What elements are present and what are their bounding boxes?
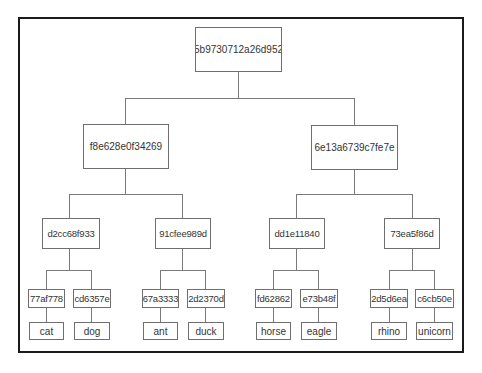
data-block-node: dog — [74, 322, 110, 340]
connector — [354, 98, 355, 125]
connector — [412, 194, 413, 219]
leaf-hash-node: fd62862 — [255, 289, 292, 308]
leaf-hash-label: 77af778 — [30, 293, 63, 304]
leaf-hash-node: 2d2370d — [187, 289, 225, 308]
data-block-label: horse — [261, 326, 286, 337]
data-block-node: cat — [29, 322, 64, 340]
level1-hash-node-right: 6e13a6739c7fe7e — [311, 125, 398, 170]
data-block-label: eagle — [307, 326, 331, 337]
leaf-hash-label: fd62862 — [257, 293, 290, 304]
connector — [46, 308, 47, 323]
level2-hash-node: 73ea5f86d — [384, 218, 440, 249]
leaf-hash-node: c6cb50e — [415, 289, 454, 308]
connector — [354, 170, 355, 195]
level2-hash-label: dd1e11840 — [274, 228, 319, 239]
data-block-node: unicorn — [416, 322, 453, 340]
data-block-label: cat — [40, 326, 53, 337]
leaf-hash-label: e73b48f — [303, 293, 336, 304]
level2-hash-node: 91cfee989d — [155, 218, 211, 249]
connector — [412, 249, 413, 270]
connector — [296, 249, 297, 270]
data-block-label: rhino — [378, 326, 400, 337]
level1-hash-label: 6e13a6739c7fe7e — [314, 142, 394, 153]
data-block-label: dog — [84, 326, 101, 337]
data-block-node: rhino — [371, 322, 407, 340]
connector — [273, 270, 319, 271]
leaf-hash-node: 67a3333 — [142, 289, 179, 308]
level2-hash-label: 91cfee989d — [159, 228, 207, 239]
connector — [205, 308, 206, 323]
connector — [160, 270, 206, 271]
leaf-hash-node: 77af778 — [28, 289, 65, 308]
connector — [182, 194, 183, 219]
connector — [46, 270, 92, 271]
connector — [125, 98, 355, 99]
data-block-node: horse — [256, 322, 291, 340]
level1-hash-node-left: f8e628e0f34269 — [83, 124, 169, 169]
connector — [160, 308, 161, 323]
level2-hash-node: d2cc68f933 — [42, 218, 100, 249]
connector — [69, 249, 70, 270]
connector — [273, 308, 274, 323]
connector — [69, 194, 183, 195]
connector — [238, 72, 239, 99]
leaf-hash-node: cd6357e — [73, 289, 111, 308]
connector — [296, 194, 413, 195]
leaf-hash-label: 67a3333 — [143, 293, 179, 304]
data-block-node: eagle — [301, 322, 337, 340]
connector — [91, 308, 92, 323]
data-block-label: ant — [154, 326, 168, 337]
leaf-hash-node: 2d5d6ea — [370, 289, 408, 308]
connector — [182, 249, 183, 270]
leaf-hash-label: c6cb50e — [417, 293, 452, 304]
level2-hash-label: 73ea5f86d — [390, 228, 433, 239]
connector — [125, 169, 126, 195]
leaf-hash-node: e73b48f — [300, 289, 338, 308]
data-block-node: duck — [188, 322, 224, 340]
level2-hash-node: dd1e11840 — [269, 218, 325, 249]
data-block-node: ant — [143, 322, 178, 340]
connector — [296, 194, 297, 219]
connector — [434, 308, 435, 323]
root-hash-label: 5b9730712a26d952 — [195, 44, 282, 55]
data-block-label: duck — [195, 326, 216, 337]
connector — [69, 194, 70, 219]
root-hash-node: 5b9730712a26d952 — [195, 27, 282, 72]
connector — [125, 98, 126, 125]
leaf-hash-label: 2d5d6ea — [371, 293, 407, 304]
level2-hash-label: d2cc68f933 — [47, 228, 94, 239]
connector — [389, 308, 390, 323]
leaf-hash-label: 2d2370d — [188, 293, 224, 304]
connector — [318, 308, 319, 323]
data-block-label: unicorn — [418, 326, 451, 337]
leaf-hash-label: cd6357e — [74, 293, 109, 304]
level1-hash-label: f8e628e0f34269 — [90, 141, 162, 152]
connector — [389, 270, 435, 271]
